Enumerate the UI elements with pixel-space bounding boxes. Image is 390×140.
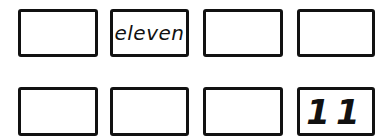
word-label: eleven <box>115 21 185 45</box>
box-r2-c1[interactable] <box>18 87 98 136</box>
box-r2-c3[interactable] <box>203 87 283 136</box>
box-r2-c4[interactable]: 11 <box>297 87 375 136</box>
box-r1-c4[interactable] <box>297 9 375 57</box>
numeral-label: 11 <box>306 92 365 132</box>
box-r1-c3[interactable] <box>203 9 283 57</box>
box-r1-c2[interactable]: eleven <box>110 9 189 57</box>
box-r2-c2[interactable] <box>110 87 189 136</box>
box-r1-c1[interactable] <box>18 9 98 57</box>
